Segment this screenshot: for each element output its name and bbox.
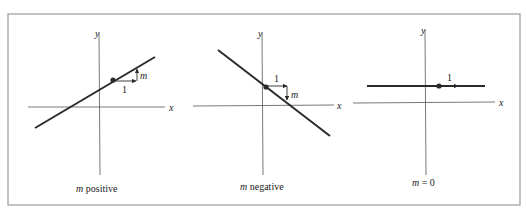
figure-frame [8, 14, 520, 205]
y-axis-label: y [257, 28, 263, 39]
x-axis [193, 105, 334, 106]
panel-positive: y x 1 m m positive [28, 28, 174, 194]
y-axis [262, 33, 263, 175]
run-label: 1 [447, 72, 452, 83]
caption-positive: m positive [76, 183, 118, 194]
x-axis-label: x [336, 100, 342, 111]
point-dot [263, 84, 268, 89]
panel-zero: y x 1 m = 0 [353, 25, 504, 188]
slope-figure: y x 1 m m positive y x 1 m m negative y … [0, 0, 526, 214]
y-axis [425, 30, 426, 175]
point-dot [110, 77, 115, 82]
rise-label: m [140, 70, 147, 81]
caption-zero: m = 0 [412, 177, 435, 188]
run-label: 1 [122, 84, 127, 95]
run-label: 1 [274, 73, 279, 84]
y-axis [99, 33, 100, 175]
x-axis [353, 102, 495, 103]
x-axis-label: x [168, 102, 174, 113]
line-negative-slope [218, 50, 330, 136]
rise-label: m [291, 89, 298, 100]
x-axis-label: x [498, 97, 504, 108]
panel-negative: y x 1 m m negative [193, 28, 342, 192]
line-positive-slope [35, 57, 155, 128]
caption-negative: m negative [240, 181, 284, 192]
y-axis-label: y [94, 28, 100, 39]
y-axis-label: y [420, 25, 426, 36]
